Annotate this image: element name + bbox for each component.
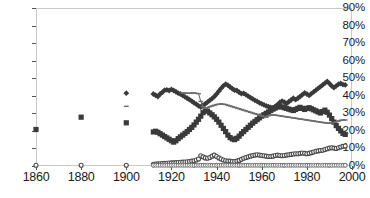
- series-square-series: [33, 104, 347, 145]
- series-baseline-zero: [151, 163, 347, 167]
- series-diamond-series: [123, 78, 348, 110]
